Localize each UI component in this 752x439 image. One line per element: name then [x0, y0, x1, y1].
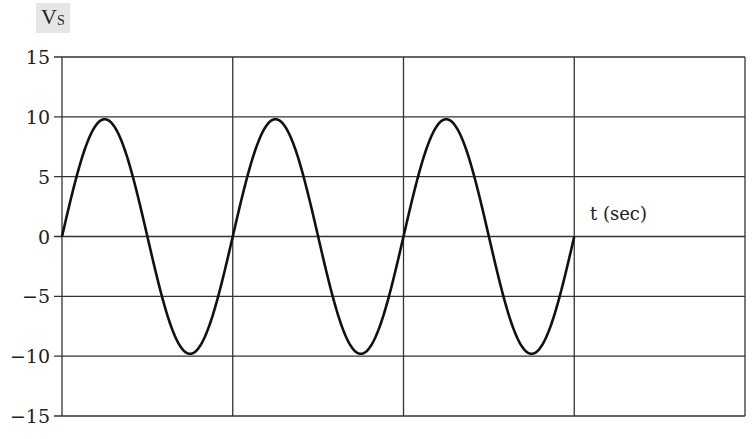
y-tick-label: 10	[26, 106, 50, 128]
y-tick-label: −15	[10, 405, 50, 427]
chart: 151050−5−10−15 t (sec)	[0, 0, 752, 439]
y-tick-label: −5	[22, 285, 50, 307]
y-tick-label: 15	[26, 46, 50, 68]
x-axis-label: t (sec)	[590, 203, 647, 224]
grid	[54, 57, 745, 416]
y-tick-label: −10	[10, 345, 50, 367]
y-tick-label: 5	[38, 166, 50, 188]
y-tick-label: 0	[38, 226, 50, 248]
y-tick-labels: 151050−5−10−15	[10, 46, 50, 427]
